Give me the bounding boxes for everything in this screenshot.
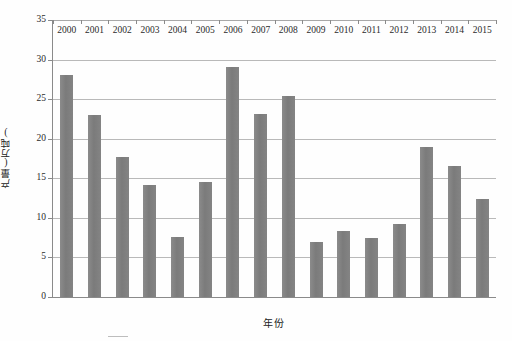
bar: [226, 67, 239, 297]
x-axis-tick-label: 2007: [251, 26, 270, 36]
x-axis-tick-label: 2013: [417, 26, 436, 36]
bar: [476, 199, 489, 297]
x-axis-tick: [413, 20, 414, 24]
bar: [199, 182, 212, 297]
bar: [448, 166, 461, 297]
y-axis-tick-label: 20: [37, 134, 47, 144]
x-axis-tick: [108, 20, 109, 24]
plot-area: 05101520253035 2000200120022003200420052…: [52, 20, 496, 298]
x-axis-tick-label: 2000: [57, 26, 76, 36]
x-axis-tick: [302, 20, 303, 24]
x-axis-tick: [191, 20, 192, 24]
bar: [282, 96, 295, 297]
chart-figure: 产量(万吨) 05101520253035 200020012002200320…: [0, 0, 512, 341]
y-axis-tick-label: 25: [37, 94, 47, 104]
bar: [171, 237, 184, 297]
x-axis-tick: [136, 20, 137, 24]
x-axis-tick-label: 2005: [196, 26, 215, 36]
x-axis-tick: [330, 20, 331, 24]
y-axis-tick-label: 10: [37, 213, 47, 223]
bar: [60, 75, 73, 297]
x-axis-tick-label: 2006: [223, 26, 242, 36]
x-axis-tick: [247, 20, 248, 24]
figure-caption-sliver: [0, 333, 512, 341]
x-axis-tick: [441, 20, 442, 24]
x-axis-tick-label: 2010: [334, 26, 353, 36]
x-axis-tick-label: 2009: [307, 26, 326, 36]
y-axis-tick-label: 35: [37, 15, 47, 25]
x-axis-tick: [81, 20, 82, 24]
bar: [365, 238, 378, 297]
bar: [310, 242, 323, 297]
x-axis-tick-label: 2002: [113, 26, 132, 36]
x-axis-tick-label: 2012: [390, 26, 409, 36]
x-axis-tick: [385, 20, 386, 24]
x-axis-tick-label: 2008: [279, 26, 298, 36]
y-axis-tick-label: 0: [41, 292, 46, 302]
bar: [337, 231, 350, 297]
x-axis-tick: [164, 20, 165, 24]
bar: [393, 224, 406, 297]
x-axis-tick: [275, 20, 276, 24]
x-axis-title: 年份: [52, 315, 495, 330]
x-axis-tick-label: 2014: [445, 26, 464, 36]
y-axis-tick: [48, 297, 53, 298]
bar: [254, 114, 267, 297]
y-axis-tick-label: 5: [41, 253, 46, 263]
y-axis-tick-label: 15: [37, 174, 47, 184]
x-axis-tick: [468, 20, 469, 24]
x-axis-tick: [358, 20, 359, 24]
x-axis-tick-label: 2003: [140, 26, 159, 36]
bar: [88, 115, 101, 297]
x-axis-tick-label: 2004: [168, 26, 187, 36]
x-axis-tick-label: 2001: [85, 26, 104, 36]
bars-group: [53, 20, 496, 297]
x-axis-tick-label: 2011: [362, 26, 381, 36]
y-axis-tick-label: 30: [37, 55, 47, 65]
bar: [420, 147, 433, 297]
y-axis-title: 产量(万吨): [2, 128, 16, 188]
bar: [143, 185, 156, 297]
x-axis-tick: [53, 20, 54, 24]
bar: [116, 157, 129, 297]
x-axis-tick: [496, 20, 497, 24]
x-axis-tick-label: 2015: [473, 26, 492, 36]
caption-rule: [108, 336, 128, 337]
x-axis-tick: [219, 20, 220, 24]
